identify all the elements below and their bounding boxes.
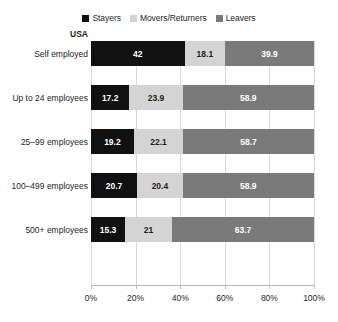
chart-legend: StayersMovers/ReturnersLeavers — [0, 14, 338, 23]
x-axis-tick-label: 20% — [127, 293, 144, 304]
gridline-40pct — [180, 41, 181, 285]
category-label: 500+ employees — [0, 225, 88, 235]
bar-value-label: 15.3 — [100, 225, 117, 235]
bar-row[interactable]: 4218.139.9 — [91, 41, 314, 66]
legend-swatch-icon — [130, 15, 137, 22]
bar-row[interactable]: 19.222.158.7 — [91, 129, 314, 154]
gridline-60pct — [225, 41, 226, 285]
bar-segment-movers-returners[interactable]: 21 — [125, 217, 172, 242]
bar-value-label: 20.7 — [106, 181, 123, 191]
bar-value-label: 58.7 — [240, 137, 257, 147]
category-label: 25–99 employees — [0, 137, 88, 147]
gridline-20pct — [136, 41, 137, 285]
bar-row[interactable]: 20.720.458.9 — [91, 173, 314, 198]
bar-value-label: 58.9 — [240, 93, 257, 103]
x-axis-tick-label: 60% — [216, 293, 233, 304]
bar-segment-leavers[interactable]: 39.9 — [225, 41, 314, 66]
bar-value-label: 20.4 — [152, 181, 169, 191]
bar-segment-movers-returners[interactable]: 20.4 — [137, 173, 182, 198]
legend-item-movers-returners[interactable]: Movers/Returners — [130, 14, 207, 23]
bar-value-label: 22.1 — [150, 137, 167, 147]
legend-item-leavers[interactable]: Leavers — [216, 14, 256, 23]
bar-value-label: 21 — [144, 225, 153, 235]
bar-segment-leavers[interactable]: 58.9 — [183, 85, 314, 110]
bar-row[interactable]: 15.32163.7 — [91, 217, 314, 242]
x-axis-tick-label: 0% — [85, 293, 97, 304]
category-label: Self employed — [0, 49, 88, 59]
x-axis-tick — [269, 285, 270, 289]
bar-value-label: 23.9 — [148, 93, 165, 103]
legend-swatch-icon — [216, 15, 223, 22]
bar-value-label: 19.2 — [104, 137, 121, 147]
gridline-0pct — [91, 41, 92, 285]
gridline-100pct — [314, 41, 315, 285]
bar-segment-movers-returners[interactable]: 18.1 — [185, 41, 225, 66]
bar-segment-movers-returners[interactable]: 23.9 — [129, 85, 182, 110]
x-axis-tick — [314, 285, 315, 289]
x-axis-tick-label: 100% — [303, 293, 325, 304]
category-label: 100–499 employees — [0, 181, 88, 191]
bar-segment-movers-returners[interactable]: 22.1 — [134, 129, 183, 154]
bar-value-label: 17.2 — [102, 93, 119, 103]
bar-segment-stayers[interactable]: 15.3 — [91, 217, 125, 242]
bar-segment-stayers[interactable]: 17.2 — [91, 85, 129, 110]
x-axis-tick — [180, 285, 181, 289]
legend-item-stayers[interactable]: Stayers — [82, 14, 120, 23]
x-axis-line — [91, 285, 314, 286]
stacked-bar-chart: StayersMovers/ReturnersLeavers USA 0%20%… — [0, 0, 338, 322]
bar-value-label: 58.9 — [240, 181, 257, 191]
bar-value-label: 18.1 — [197, 49, 214, 59]
category-label: Up to 24 employees — [0, 93, 88, 103]
bar-row[interactable]: 17.223.958.9 — [91, 85, 314, 110]
bar-value-label: 39.9 — [261, 49, 278, 59]
legend-label: Movers/Returners — [140, 14, 207, 23]
bar-segment-stayers[interactable]: 42 — [91, 41, 185, 66]
bar-segment-stayers[interactable]: 20.7 — [91, 173, 137, 198]
plot-area — [91, 41, 314, 285]
legend-label: Stayers — [92, 14, 120, 23]
bar-segment-leavers[interactable]: 58.7 — [183, 129, 314, 154]
bar-segment-leavers[interactable]: 58.9 — [183, 173, 314, 198]
x-axis-tick-label: 80% — [261, 293, 278, 304]
x-axis-tick — [136, 285, 137, 289]
x-axis-tick — [225, 285, 226, 289]
x-axis-tick — [91, 285, 92, 289]
legend-swatch-icon — [82, 15, 89, 22]
bar-value-label: 63.7 — [235, 225, 252, 235]
region-label: USA — [0, 29, 88, 39]
bar-segment-stayers[interactable]: 19.2 — [91, 129, 134, 154]
x-axis-tick-label: 40% — [172, 293, 189, 304]
bar-segment-leavers[interactable]: 63.7 — [172, 217, 314, 242]
gridline-80pct — [269, 41, 270, 285]
legend-label: Leavers — [226, 14, 256, 23]
bar-value-label: 42 — [133, 49, 142, 59]
